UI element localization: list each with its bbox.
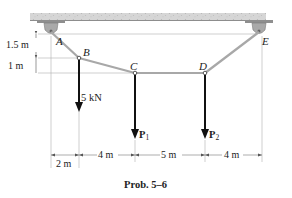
dim-horizontal-ab: 2 m <box>56 158 72 169</box>
label-a: A <box>55 35 63 47</box>
dim-vertical-bc: 1 m <box>8 60 24 71</box>
cable-diagram: A B C D E 5 kN P1 P2 1.5 m 1 m 2 m 4 m 5… <box>0 0 292 198</box>
load-label-p1: P1 <box>139 129 149 142</box>
load-arrow-c-icon <box>131 75 139 139</box>
dim-horizontal-bc: 4 m <box>98 149 114 160</box>
support-e-icon <box>245 20 273 34</box>
label-c: C <box>130 60 138 72</box>
load-label-p2: P2 <box>209 129 219 142</box>
label-b: B <box>83 46 90 58</box>
label-d: D <box>198 60 207 72</box>
load-arrow-b-icon <box>75 60 83 112</box>
load-label-b: 5 kN <box>81 92 102 103</box>
ceiling <box>30 13 266 21</box>
dim-vertical-ab: 1.5 m <box>6 39 29 50</box>
figure-caption: Prob. 5–6 <box>124 179 167 190</box>
load-arrow-d-icon <box>201 75 209 139</box>
dim-horizontal-de: 4 m <box>224 149 240 160</box>
joint-b-icon <box>77 56 81 60</box>
support-a-icon <box>37 20 65 34</box>
dim-horizontal-cd: 5 m <box>161 149 177 160</box>
label-e: E <box>261 35 269 47</box>
